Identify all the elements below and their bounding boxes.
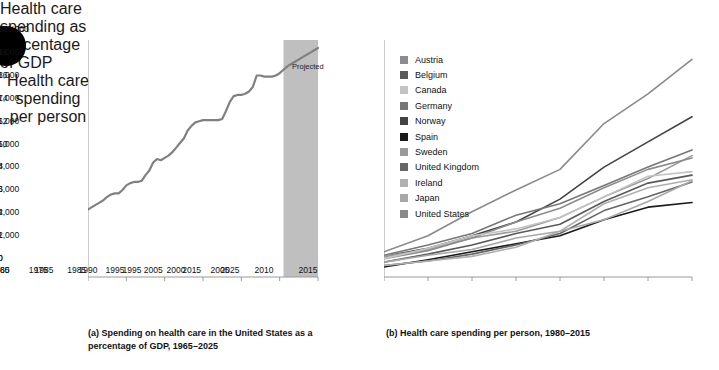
legend-swatch-icon (400, 133, 408, 141)
legend-item-label: United States (415, 209, 469, 219)
legend-swatch-icon (400, 86, 408, 94)
figure-container: Health care spending as percentage of GD… (0, 0, 719, 370)
legend-swatch-icon (400, 163, 408, 171)
legend-item-japan[interactable]: Japan (400, 191, 479, 206)
legend-swatch-icon (400, 56, 408, 64)
legend-item-united-kingdom[interactable]: United Kingdom (400, 160, 479, 175)
legend-item-label: Canada (415, 85, 447, 95)
legend-item-label: Norway (415, 116, 446, 126)
legend-item-austria[interactable]: Austria (400, 52, 479, 67)
x-axis-tick-label: 1995 (112, 265, 152, 275)
x-axis-tick-label: 2015 (288, 265, 328, 275)
chart-panel-a (88, 18, 324, 301)
legend-item-label: Japan (415, 193, 440, 203)
legend-swatch-icon (400, 102, 408, 110)
legend-swatch-icon (400, 194, 408, 202)
x-axis-tick-label: 1980 (0, 265, 20, 275)
legend-swatch-icon (400, 210, 408, 218)
plot-area-a (88, 18, 324, 301)
legend-item-united-states[interactable]: United States (400, 206, 479, 221)
projected-band-label: Projected (292, 62, 324, 71)
legend-swatch-icon (400, 71, 408, 79)
legend-item-label: Austria (415, 55, 443, 65)
legend-swatch-icon (400, 179, 408, 187)
caption-panel-b: (b) Health care spending per person, 198… (386, 327, 686, 340)
x-axis-tick-label: 2010 (244, 265, 284, 275)
legend-item-label: Sweden (415, 147, 448, 157)
legend-item-label: Belgium (415, 70, 448, 80)
x-axis-tick-label: 1990 (68, 265, 108, 275)
legend-panel-b: AustriaBelgiumCanadaGermanyNorwaySpainSw… (400, 52, 479, 221)
panel-a-title-line-1: Health care (0, 0, 110, 18)
x-axis-tick-label: 2005 (200, 265, 240, 275)
legend-item-norway[interactable]: Norway (400, 114, 479, 129)
caption-panel-a: (a) Spending on health care in the Unite… (88, 327, 338, 353)
legend-item-label: Spain (415, 132, 438, 142)
x-axis-tick-label: 1985 (24, 265, 64, 275)
legend-swatch-icon (400, 117, 408, 125)
legend-item-spain[interactable]: Spain (400, 129, 479, 144)
legend-item-label: Germany (415, 101, 452, 111)
x-axis-tick-label: 2000 (156, 265, 196, 275)
legend-item-canada[interactable]: Canada (400, 83, 479, 98)
legend-item-label: Ireland (415, 178, 443, 188)
legend-item-ireland[interactable]: Ireland (400, 175, 479, 190)
legend-item-label: United Kingdom (415, 162, 479, 172)
legend-item-sweden[interactable]: Sweden (400, 144, 479, 159)
legend-swatch-icon (400, 148, 408, 156)
legend-item-germany[interactable]: Germany (400, 98, 479, 113)
legend-item-belgium[interactable]: Belgium (400, 67, 479, 82)
